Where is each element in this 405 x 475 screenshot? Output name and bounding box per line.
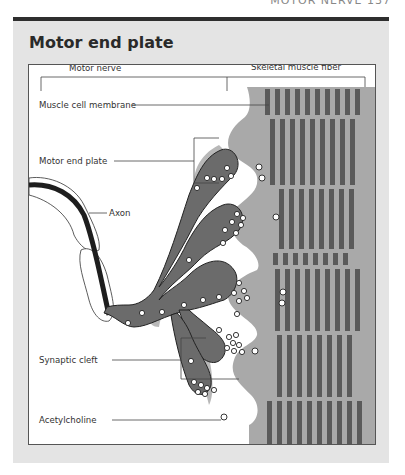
label-synaptic-cleft: Synaptic cleft (39, 355, 98, 365)
page-header: MOTOR NERVE 137 (270, 0, 391, 7)
motor-end-plate-diagram: Motor nerve Skeletal muscle fiber (28, 64, 376, 445)
label-acetylcholine: Acetylcholine (39, 415, 97, 425)
nerve-terminal (104, 149, 243, 394)
label-motor-end-plate: Motor end plate (39, 156, 107, 166)
label-muscle-cell-membrane: Muscle cell membrane (39, 100, 136, 110)
motor-nerve-label: Motor nerve (69, 65, 121, 73)
panel-title: Motor end plate (29, 33, 174, 52)
label-axon: Axon (109, 208, 130, 218)
skeletal-muscle-fiber-label: Skeletal muscle fiber (251, 65, 341, 72)
